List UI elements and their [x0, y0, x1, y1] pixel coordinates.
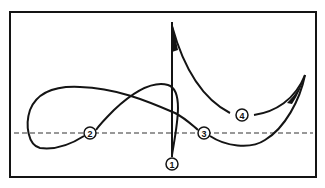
- main-loop-curve: [28, 75, 305, 155]
- marker-1-label: 1: [169, 160, 174, 170]
- marker-1: 1: [166, 158, 178, 170]
- marker-4-label: 4: [239, 111, 244, 121]
- marker-4: 4: [236, 109, 248, 121]
- marker-3-label: 3: [201, 129, 206, 139]
- curve-diagram: 1 2 3 4: [0, 0, 325, 188]
- diagram-frame: [10, 12, 316, 177]
- upper-right-branch: [172, 26, 305, 115]
- marker-2-label: 2: [87, 129, 92, 139]
- marker-3: 3: [198, 127, 210, 139]
- marker-2: 2: [84, 127, 96, 139]
